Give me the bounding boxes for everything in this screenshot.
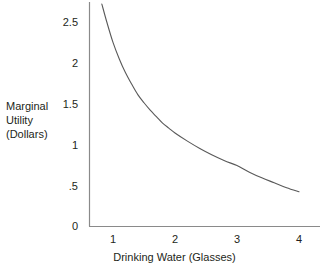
x-tick-label-1: 1 [103, 234, 123, 245]
marginal-utility-curve [102, 4, 299, 192]
y-tick-label-2: 2 [48, 58, 78, 69]
y-tick-label-0-5: .5 [48, 181, 78, 192]
y-axis-label-line-1: Marginal [6, 99, 76, 113]
y-tick-label-2-5: 2.5 [48, 17, 78, 28]
y-axis-label-line-2: Utility [6, 113, 76, 127]
x-tick-label-3: 3 [227, 234, 247, 245]
y-tick-label-0: 0 [48, 221, 78, 232]
y-axis-label-line-3: (Dollars) [6, 127, 76, 141]
y-tick-label-1: 1 [48, 140, 78, 151]
x-axis-label: Drinking Water (Glasses) [0, 251, 327, 264]
x-tick-label-2: 2 [165, 234, 185, 245]
marginal-utility-chart: 2.5 2 1.5 1 .5 0 1 2 3 4 Marginal Utilit… [0, 0, 327, 274]
x-tick-label-4: 4 [289, 234, 309, 245]
y-axis-label: Marginal Utility (Dollars) [6, 99, 76, 141]
